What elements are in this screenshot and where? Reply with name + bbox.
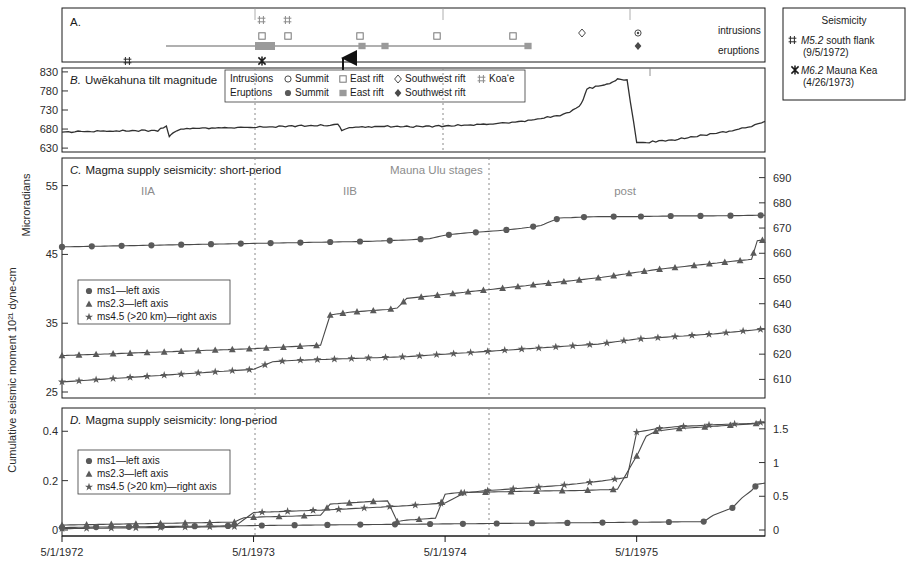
panel-c-legend-item-1: ms2.3—left axis	[97, 298, 168, 309]
panel-d-right-yticks: 00.511.5	[759, 423, 788, 536]
panel-d-legend-item-2: ms4.5 (>20 km)—right axis	[97, 481, 217, 492]
data-point-marker	[382, 353, 390, 361]
data-point-marker	[284, 507, 292, 515]
data-point-marker	[611, 475, 619, 483]
data-point-marker	[268, 240, 274, 246]
data-point-marker	[427, 521, 433, 527]
summit-intrusion-markers	[635, 30, 641, 36]
axis-tick-label: 25	[46, 386, 58, 398]
axis-tick-label: 680	[773, 197, 791, 209]
axis-tick-label: 610	[773, 373, 791, 385]
data-point-marker	[535, 344, 543, 352]
data-point-marker	[208, 241, 214, 247]
seismicity-legend-title: Seismicity	[821, 15, 866, 26]
panel-a-frame	[62, 8, 765, 62]
data-point-marker	[722, 329, 730, 337]
data-point-marker	[261, 361, 269, 369]
data-point-marker	[258, 508, 266, 516]
data-point-marker	[638, 213, 644, 219]
data-point-marker	[119, 243, 125, 249]
seismicity-event-markers	[124, 57, 266, 66]
seismicity-legend: Seismicity M5.2south flank (9/5/1972) M6…	[783, 8, 905, 100]
panel-b-symbol-legend: Intrusions Summit East rift Southwest ri…	[225, 70, 525, 102]
eruption-item-1-label: East rift	[350, 87, 384, 98]
data-point-marker	[697, 213, 703, 219]
data-point-marker	[92, 376, 100, 384]
axis-tick-label: 830	[40, 66, 58, 78]
data-point-marker	[564, 520, 570, 526]
axis-tick-label: 1.5	[773, 423, 788, 435]
data-point-marker	[296, 356, 304, 364]
seismicity-item-0-label: M5.2south flank	[801, 35, 876, 46]
data-point-marker	[399, 353, 407, 361]
panel-b-ylabel: Microradians	[20, 173, 32, 236]
panel-b-title: B.Uwēkahuna tilt magnitude	[70, 74, 217, 86]
axis-tick-label: 690	[773, 172, 791, 184]
axis-tick-label: 670	[773, 222, 791, 234]
data-point-marker	[586, 340, 594, 348]
data-point-marker	[554, 216, 560, 222]
panel-b: Microradians 630680730780830 B.Uwēkahuna…	[20, 66, 765, 237]
axis-tick-label: 630	[773, 323, 791, 335]
data-point-marker	[757, 325, 765, 333]
data-point-marker	[148, 242, 154, 248]
data-point-marker	[530, 224, 536, 230]
data-point-marker	[230, 522, 238, 530]
axis-tick-label: 0	[773, 524, 779, 536]
data-point-marker	[727, 213, 733, 219]
data-point-marker	[178, 242, 184, 248]
stage-label-post: post	[614, 185, 637, 197]
data-point-marker	[365, 354, 373, 362]
data-point-marker	[560, 481, 568, 489]
data-point-marker	[206, 523, 214, 531]
panel-c-title: C.Magma supply seismicity: short-period	[70, 164, 281, 176]
intrusion-item-2-label: Southwest rift	[405, 73, 466, 84]
data-point-marker	[701, 519, 707, 525]
intrusions-legend-label: Intrusions	[230, 73, 273, 84]
eruption-item-2-label: Southwest rift	[405, 87, 466, 98]
data-point-marker	[335, 505, 343, 513]
axis-tick-label: 55	[46, 180, 58, 192]
data-point-marker	[313, 355, 321, 363]
x-axis-tick-label: 5/1/1973	[232, 546, 275, 558]
panel-c-left-yticks: 25354555	[46, 180, 68, 398]
data-point-marker	[109, 374, 117, 382]
panel-a-label: A.	[70, 16, 81, 28]
data-point-marker	[259, 522, 265, 528]
eruptions-legend-label: Eruptions	[230, 87, 272, 98]
data-point-marker	[729, 505, 735, 511]
data-point-marker	[446, 232, 452, 238]
axis-tick-label: 0.4	[43, 425, 58, 437]
data-point-marker	[297, 240, 303, 246]
data-point-marker	[348, 354, 356, 362]
east-rift-intrusion-markers	[259, 33, 516, 39]
data-point-marker	[752, 483, 758, 489]
eruption-item-0-label: Summit	[295, 87, 329, 98]
data-point-marker	[309, 506, 317, 514]
panel-a-row-eruptions: eruptions	[718, 45, 759, 56]
data-point-marker	[418, 236, 424, 242]
axis-tick-label: 640	[773, 298, 791, 310]
data-point-marker	[192, 523, 198, 529]
southwest-rift-eruption-markers	[635, 42, 642, 50]
main-ylabel: Cumulative seismic moment 10²¹ dyne-cm	[6, 267, 18, 472]
axis-tick-label: 620	[773, 348, 791, 360]
data-point-marker	[211, 368, 219, 376]
panel-d: D.Magma supply seismicity: long-period 0…	[43, 408, 789, 536]
data-point-marker	[758, 212, 764, 218]
data-point-marker	[620, 337, 628, 345]
panel-c-legend-item-2: ms4.5 (>20 km)—right axis	[97, 311, 217, 322]
data-point-marker	[278, 357, 286, 365]
data-point-marker	[750, 249, 757, 255]
panel-c-legend-item-0: ms1—left axis	[97, 285, 160, 296]
panel-d-title: D.Magma supply seismicity: long-period	[70, 414, 277, 426]
data-point-marker	[671, 332, 679, 340]
data-point-marker	[89, 243, 95, 249]
data-point-marker	[518, 345, 526, 353]
data-point-marker	[416, 352, 424, 360]
data-point-marker	[433, 351, 441, 359]
data-point-marker	[238, 241, 244, 247]
data-point-marker	[75, 377, 83, 385]
data-point-marker	[143, 372, 151, 380]
data-point-marker	[93, 524, 99, 530]
